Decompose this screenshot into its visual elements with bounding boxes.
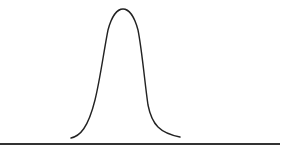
bell-curve	[71, 9, 180, 138]
bell-curve-figure	[0, 0, 283, 147]
diagram-canvas	[0, 0, 283, 147]
